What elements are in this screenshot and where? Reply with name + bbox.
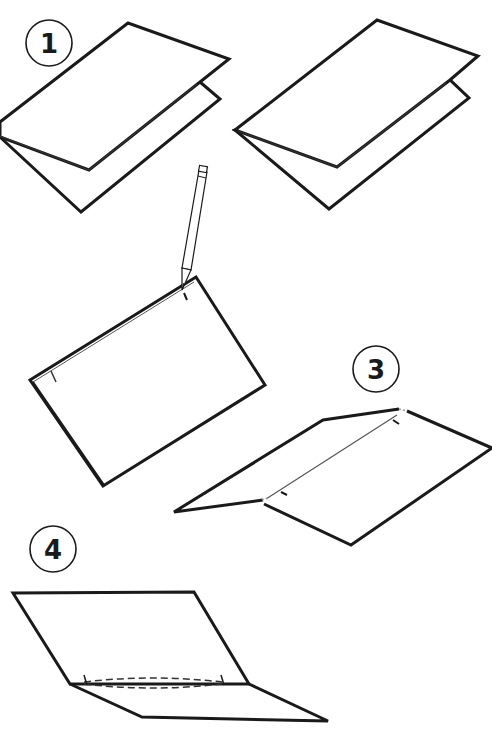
pencil-icon <box>182 165 207 290</box>
step-2-card <box>30 277 265 486</box>
step-1-badge: 1 <box>26 20 72 66</box>
fold-tick-bottom <box>281 492 287 495</box>
step-4-card <box>13 592 328 721</box>
step-3-badge: 3 <box>353 346 399 392</box>
step-3-card <box>174 409 492 545</box>
step-1-card-right <box>235 20 478 209</box>
step-4-badge: 4 <box>30 526 76 572</box>
step-4-number: 4 <box>44 535 62 565</box>
fold-tick-top <box>393 420 399 424</box>
step-1-number: 1 <box>40 29 58 59</box>
step-3-number: 3 <box>367 355 385 385</box>
folding-diagram: 1 3 <box>0 0 492 756</box>
